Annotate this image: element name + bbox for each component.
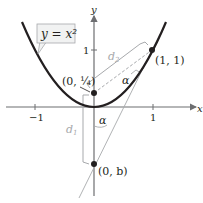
point-0-b xyxy=(91,161,97,167)
focus-point xyxy=(91,90,97,96)
point-1-1 xyxy=(149,47,155,53)
d2-label: d2 xyxy=(108,50,120,64)
x-tick-label-neg1: −1 xyxy=(29,112,44,123)
angle-label-bottom: α xyxy=(99,114,107,127)
x-axis-label: x xyxy=(197,103,203,114)
angle-label-top: α xyxy=(122,74,130,87)
d2-bracket xyxy=(87,42,148,88)
x-tick-label-1: 1 xyxy=(150,112,156,123)
focus-label: (0, ¼) xyxy=(62,75,95,88)
y-tick-label-1: 1 xyxy=(83,45,89,56)
curve-label: y = x² xyxy=(40,27,77,41)
parabola-reflection-diagram: y = x² (0, ¼) (1, 1) (0, b) x y −1 1 1 d… xyxy=(0,0,203,203)
diagram-svg: y = x² (0, ¼) (1, 1) (0, b) x y −1 1 1 d… xyxy=(0,0,203,203)
point-1-1-label: (1, 1) xyxy=(155,54,185,67)
d1-label: d1 xyxy=(66,123,78,137)
y-axis-label: y xyxy=(90,4,97,15)
point-0-b-label: (0, b) xyxy=(98,165,128,178)
